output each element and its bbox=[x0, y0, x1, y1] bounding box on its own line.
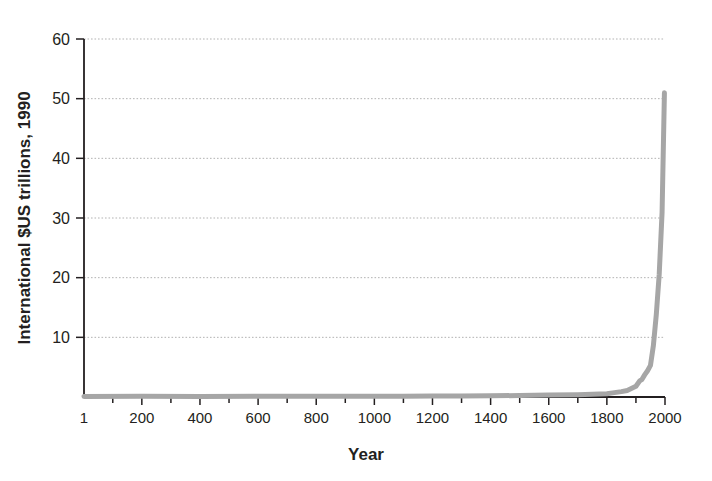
y-tick-label-30: 30 bbox=[52, 210, 70, 227]
x-tick-label-600: 600 bbox=[246, 409, 271, 426]
x-tick-label-400: 400 bbox=[187, 409, 212, 426]
x-tick-label-1800: 1800 bbox=[590, 409, 623, 426]
x-tick-label-1200: 1200 bbox=[416, 409, 449, 426]
y-tick-label-10: 10 bbox=[52, 329, 70, 346]
y-tick-label-50: 50 bbox=[52, 90, 70, 107]
y-tick-label-40: 40 bbox=[52, 150, 70, 167]
x-tick-label-800: 800 bbox=[304, 409, 329, 426]
y-tick-label-20: 20 bbox=[52, 269, 70, 286]
x-axis-title: Year bbox=[348, 445, 384, 464]
x-tick-label-1: 1 bbox=[80, 409, 88, 426]
x-tick-label-2000: 2000 bbox=[648, 409, 681, 426]
y-axis-title: International $US trillions, 1990 bbox=[15, 91, 34, 344]
x-tick-label-1600: 1600 bbox=[532, 409, 565, 426]
line-chart: 1200400600800100012001400160018002000 10… bbox=[0, 0, 712, 481]
x-tick-label-1000: 1000 bbox=[358, 409, 391, 426]
y-tick-label-60: 60 bbox=[52, 31, 70, 48]
x-tick-label-200: 200 bbox=[129, 409, 154, 426]
x-tick-label-1400: 1400 bbox=[474, 409, 507, 426]
chart-container: 1200400600800100012001400160018002000 10… bbox=[0, 0, 712, 481]
